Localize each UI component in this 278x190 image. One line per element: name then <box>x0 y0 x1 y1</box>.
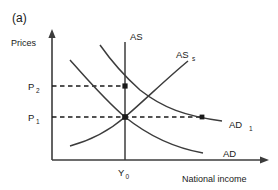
ad-initial-label: AD <box>223 148 236 159</box>
p2-tick-label: P 2 <box>28 81 40 94</box>
shifted-equilibrium-point <box>122 83 127 88</box>
figure-container: (a) Prices National income P 2 P 1 Y 0 A… <box>0 0 278 190</box>
y0-tick-sub: 0 <box>126 173 130 180</box>
as-short-run-label: AS s <box>176 49 196 62</box>
x-axis-arrowhead <box>260 156 269 163</box>
ad-as-diagram: (a) Prices National income P 2 P 1 Y 0 A… <box>0 0 278 190</box>
panel-label: (a) <box>12 11 27 25</box>
p1-tick-sub: 1 <box>36 118 40 125</box>
ad-shifted-label-main: AD <box>229 119 242 130</box>
equilibrium-markers <box>122 83 204 119</box>
as-vertical-label: AS <box>130 31 143 42</box>
as-short-run-label-sub: s <box>192 55 196 62</box>
p1-tick-main: P <box>28 112 34 123</box>
p2-tick-main: P <box>28 81 34 92</box>
x-axis-label: National income <box>182 174 247 184</box>
y0-tick-label: Y 0 <box>118 167 130 180</box>
p2-tick-sub: 2 <box>36 87 40 94</box>
p1-tick-label: P 1 <box>28 112 40 125</box>
short-run-point <box>200 115 205 120</box>
y-axis-arrowhead <box>48 29 55 38</box>
as-short-run-curve <box>70 61 188 146</box>
axis-group <box>48 29 269 164</box>
y-axis-label: Prices <box>11 38 37 48</box>
y0-tick-main: Y <box>118 167 125 178</box>
ad-shifted-curve <box>100 45 222 121</box>
ad-shifted-label: AD 1 <box>229 119 253 132</box>
as-short-run-label-main: AS <box>176 49 189 60</box>
ad-shifted-label-sub: 1 <box>249 125 253 132</box>
initial-equilibrium-point <box>122 114 128 120</box>
